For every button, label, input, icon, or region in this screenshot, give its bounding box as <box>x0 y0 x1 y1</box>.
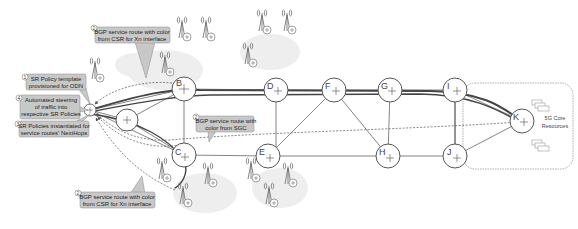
node-label-j: J <box>447 147 452 157</box>
core-label: 5G Core <box>545 115 566 121</box>
router-node-c: C <box>172 143 196 167</box>
svg-text:service routes' NextHops: service routes' NextHops <box>21 130 88 136</box>
node-label-d: D <box>267 81 274 91</box>
svg-text:from CSR for Xn interface: from CSR for Xn interface <box>98 36 167 42</box>
cell-site-cloud-bottom-mid <box>252 168 308 208</box>
router-node-g: G <box>378 78 402 102</box>
node-label-k: K <box>513 112 519 122</box>
svg-text:respective SR Policies: respective SR Policies <box>21 111 81 117</box>
router-node-i: I <box>443 78 467 102</box>
node-label-c: C <box>175 147 182 157</box>
svg-text:SR Policies instantiated for: SR Policies instantiated for <box>18 123 90 129</box>
svg-text:Automated steering: Automated steering <box>25 97 77 103</box>
svg-text:4: 4 <box>18 95 21 101</box>
node-label-g: G <box>381 81 388 91</box>
core-label: Resources <box>542 123 569 129</box>
svg-text:provisioned for ODN: provisioned for ODN <box>29 83 83 89</box>
router-node-f: F <box>322 78 346 102</box>
router-node-d: D <box>264 78 288 102</box>
svg-text:BGP service route with color: BGP service route with color <box>94 29 170 35</box>
router-node-h: H <box>376 144 400 168</box>
svg-text:SR Policy template: SR Policy template <box>31 76 82 82</box>
callout-bgp-route-sgc: 2 BGP service route with color from SGC <box>193 114 256 142</box>
node-label-b: B <box>176 78 182 88</box>
server-stack-icon <box>532 100 549 111</box>
server-stack-icon <box>532 140 549 151</box>
svg-text:BGP service route with: BGP service route with <box>196 118 257 124</box>
node-label-i: I <box>447 81 450 91</box>
router-node-e: E <box>256 144 280 168</box>
svg-text:BGP service route with color: BGP service route with color <box>79 194 155 200</box>
node-label-e: E <box>259 147 265 157</box>
router-node-k: K <box>510 109 534 133</box>
node-label-h: H <box>379 147 386 157</box>
svg-text:of traffic into: of traffic into <box>35 104 68 110</box>
router-node-x <box>116 109 138 131</box>
svg-text:from CSR for Xn interface: from CSR for Xn interface <box>83 201 152 207</box>
router-node-j: J <box>443 144 467 168</box>
callout-bgp-route-csr-bottom: 2 BGP service route with color from CSR … <box>75 176 155 208</box>
svg-text:1: 1 <box>24 74 27 80</box>
odn-sr-policy-diagram: B C D E F G H I J <box>0 0 578 229</box>
callout-automated-steering: 4 Automated steering of traffic into res… <box>16 95 88 119</box>
node-label-f: F <box>325 81 331 91</box>
router-node-b: B <box>172 77 196 101</box>
svg-text:color from SGC: color from SGC <box>205 125 247 131</box>
